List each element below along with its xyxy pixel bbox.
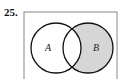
set-b-label: B [93,42,99,53]
venn-diagram: A B [0,0,120,79]
set-a-label: A [44,42,52,53]
